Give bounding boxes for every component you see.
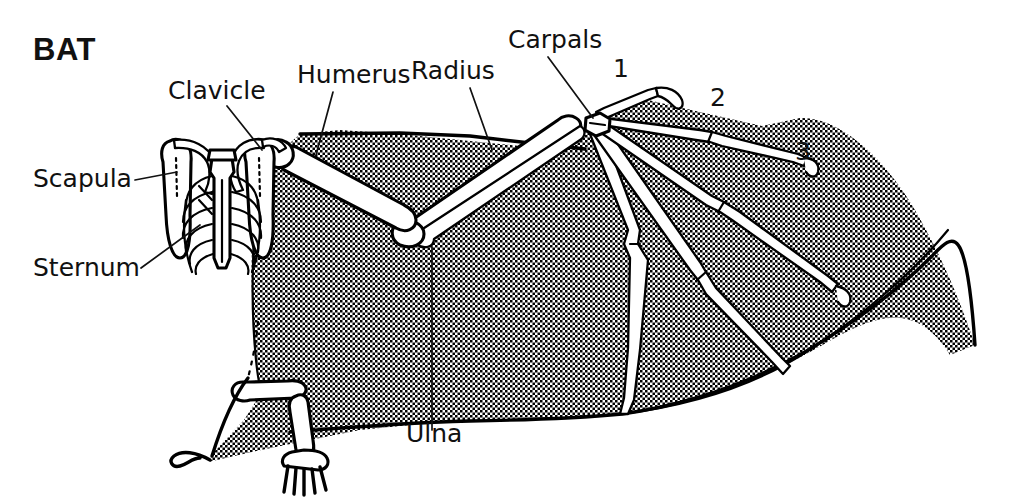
label-clavicle: Clavicle [168,76,266,105]
digit-number-1: 1 [613,54,629,83]
label-radius: Radius [411,56,495,85]
label-carpals: Carpals [508,25,602,54]
carpals-bones [585,113,610,136]
figure-title: BAT [33,32,96,67]
carpals-leader-line [548,57,593,118]
label-humerus: Humerus [297,60,411,89]
digit-number-3: 3 [795,137,811,166]
digit-number-2: 2 [710,83,726,112]
bat-skeleton-illustration: BAT Clavicle Humerus Radius Carpals Scap… [0,0,1010,503]
wing-membrane [0,0,1010,503]
thorax-skeleton [162,138,286,274]
radius-leader-line [470,88,492,150]
label-sternum: Sternum [33,253,140,282]
label-ulna: Ulna [406,419,462,448]
diagram-canvas: BAT Clavicle Humerus Radius Carpals Scap… [0,0,1010,503]
label-scapula: Scapula [33,164,132,193]
